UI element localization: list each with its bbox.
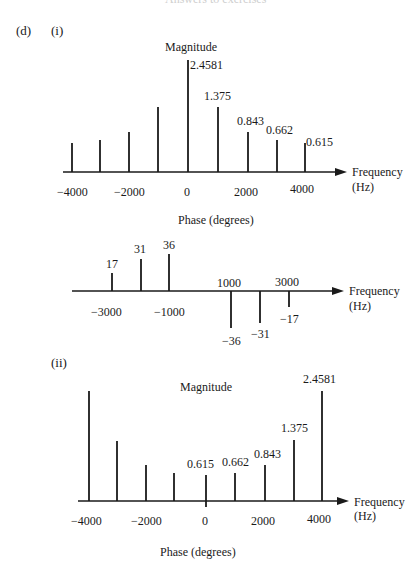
x-tick-label: 1000	[217, 276, 241, 290]
value-label: 31	[134, 242, 146, 256]
value-label: −17	[280, 312, 299, 326]
figure-canvas: Answers to exercises (d) (i) Magnitude 2…	[0, 0, 417, 567]
value-label: 0.615	[306, 135, 333, 149]
x-axis-unit: (Hz)	[352, 180, 374, 194]
value-label: 2.4581	[303, 372, 336, 386]
chart-i-phase: Phase (degrees) 17 31 36 −36 −31 −17 −30…	[72, 213, 400, 348]
value-label: 36	[163, 238, 175, 252]
value-label: 1.375	[204, 89, 231, 103]
x-axis-label: Frequency	[352, 165, 403, 179]
value-label: 17	[106, 257, 118, 271]
chart-ii-magnitude: Magnitude 0.615 0.662 0.843 1.375 2.4581…	[71, 372, 405, 528]
magnitude-title: Magnitude	[180, 380, 232, 394]
x-tick-label: 0	[184, 185, 190, 199]
value-label: 0.662	[266, 123, 293, 137]
x-tick-label: −4000	[57, 185, 88, 199]
panel-i-label: (i)	[51, 23, 63, 38]
value-label: 0.843	[237, 114, 264, 128]
stems	[72, 60, 305, 172]
part-label: (d)	[16, 23, 31, 38]
magnitude-title: Magnitude	[165, 40, 217, 54]
value-label: 0.662	[222, 455, 249, 469]
value-label: 0.615	[187, 457, 214, 471]
x-tick-label: −3000	[91, 305, 122, 319]
x-tick-label: 4000	[307, 512, 331, 526]
x-axis-unit: (Hz)	[349, 299, 371, 313]
value-label: 2.4581	[190, 58, 223, 72]
x-axis-unit: (Hz)	[354, 509, 376, 523]
x-tick-label: 2000	[251, 514, 275, 528]
x-tick-label: 3000	[275, 275, 299, 289]
x-tick-label: −2000	[114, 185, 145, 199]
x-axis-label: Frequency	[349, 284, 400, 298]
chart-i-magnitude: Magnitude 2.4581 1.375 0.843 0.662 0.615…	[57, 40, 403, 199]
axis-arrow-icon	[337, 497, 349, 505]
stems	[89, 391, 322, 507]
panel-ii-label: (ii)	[51, 355, 67, 370]
value-label: −36	[222, 334, 241, 348]
phase-title: Phase (degrees)	[160, 545, 236, 559]
x-tick-label: −4000	[71, 514, 102, 528]
value-label: 1.375	[281, 421, 308, 435]
x-tick-label: 2000	[234, 185, 258, 199]
x-tick-label: 4000	[290, 182, 314, 196]
x-tick-label: −1000	[154, 305, 185, 319]
axis-arrow-icon	[335, 168, 347, 176]
axis-arrow-icon	[332, 287, 344, 295]
x-tick-label: 0	[202, 514, 208, 528]
value-label: −31	[251, 327, 270, 341]
x-tick-label: −2000	[131, 514, 162, 528]
x-axis-label: Frequency	[354, 495, 405, 509]
value-label: 0.843	[254, 447, 281, 461]
phase-title: Phase (degrees)	[178, 213, 254, 227]
header-fragment: Answers to exercises	[165, 0, 267, 6]
